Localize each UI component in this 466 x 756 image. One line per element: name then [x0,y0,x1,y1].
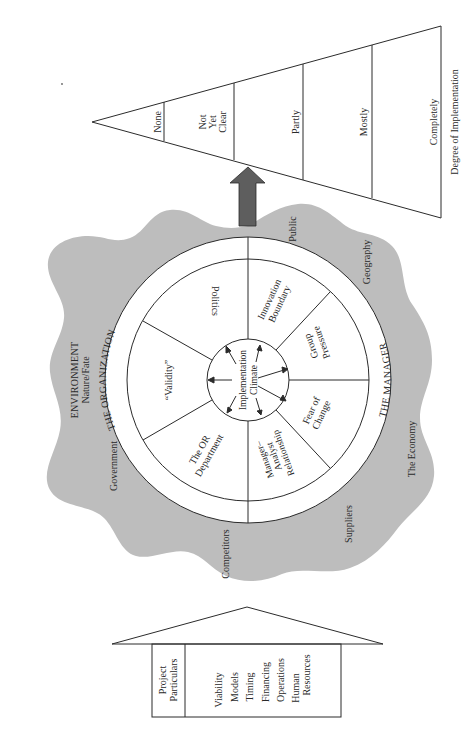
svg-text:Project: Project [157,666,168,695]
level-not-yet-clear: Not Yet Clear [197,111,228,133]
factor-public: Public [287,216,298,242]
item-viability: Viability [213,673,224,708]
item-models: Models [229,672,240,702]
factor-suppliers: Suppliers [343,505,354,543]
sector-politics: Politics [210,286,221,316]
factor-geography: Geography [361,240,372,284]
item-timing: Timing [244,672,255,701]
up-arrow-icon [230,167,265,226]
factor-competitors: Competitors [220,529,231,579]
level-none: None [152,111,163,133]
sector-validity: “Validity” [163,360,174,401]
svg-text:ENVIRONMENT: ENVIRONMENT [69,342,80,419]
project-particulars-header: Project Particulars [157,659,179,702]
item-human: Human [290,673,301,702]
item-resources: Resources [301,654,312,695]
level-completely: Completely [428,99,439,146]
factor-government: Government [108,441,119,491]
item-financing: Financing [260,662,271,702]
item-operations: Operations [275,658,286,702]
level-partly: Partly [290,110,301,134]
level-mostly: Mostly [358,108,369,136]
svg-text:Implementation: Implementation [238,350,248,410]
svg-text:Particulars: Particulars [168,659,179,702]
implementation-scale [92,26,441,218]
wheel [105,237,391,523]
speck [61,83,63,85]
svg-text:Nature/Fate: Nature/Fate [80,356,91,404]
factor-the-economy: The Economy [406,421,417,477]
implementation-diagram: None Not Yet Clear Partly Mostly Complet… [0,0,466,756]
svg-text:Clear: Clear [217,111,228,133]
scale-title: Degree of Implementation [449,69,460,175]
svg-text:Climate: Climate [249,365,259,395]
